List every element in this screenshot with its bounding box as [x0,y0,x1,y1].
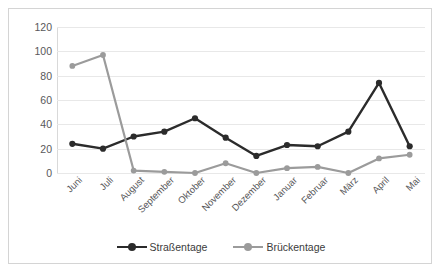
x-axis-tick-label: März [338,175,360,197]
x-axis-tick-label: Januar [271,175,298,202]
x-axis-tick-label: August [118,175,146,203]
data-point[interactable] [407,152,413,158]
legend-swatch-brueckentage [233,242,263,252]
x-axis-tick-label: Februar [299,175,329,205]
x-axis-tick-label: April [371,175,391,195]
data-point[interactable] [131,168,137,174]
y-axis-tick-label: 80 [40,70,52,81]
data-point[interactable] [376,156,382,162]
x-axis-tick-label: Mai [404,175,422,193]
data-point[interactable] [407,143,413,149]
legend-item-brueckentage[interactable]: Brückentage [233,241,325,253]
data-point[interactable] [69,141,75,147]
legend-swatch-strassentage [117,242,147,252]
x-axis-tick-labels: JuniJuliAugustSeptemberOktoberNovemberDe… [57,175,425,237]
data-point[interactable] [192,115,198,121]
data-point[interactable] [284,142,290,148]
data-point[interactable] [223,160,229,166]
x-axis-tick-label: Juli [98,175,115,192]
legend-label-brueckentage: Brückentage [266,241,325,253]
series-lines-svg [57,27,425,173]
chart-container: 020406080100120 JuniJuliAugustSeptemberO… [8,8,432,264]
data-point[interactable] [315,164,321,170]
legend-label-strassentage: Straßentage [150,241,208,253]
y-axis-tick-label: 0 [46,168,52,179]
data-point[interactable] [345,129,351,135]
y-axis-tick-label: 100 [34,46,52,57]
gridline [57,173,425,174]
data-point[interactable] [161,129,167,135]
data-point[interactable] [100,52,106,58]
data-point[interactable] [253,153,259,159]
data-point[interactable] [315,143,321,149]
data-point[interactable] [161,169,167,175]
y-axis-tick-label: 60 [40,95,52,106]
y-axis-tick-label: 20 [40,143,52,154]
data-point[interactable] [69,63,75,69]
chart-legend: Straßentage Brückentage [9,241,433,253]
y-axis-tick-label: 40 [40,119,52,130]
legend-item-strassentage[interactable]: Straßentage [117,241,208,253]
plot-area: 020406080100120 [57,27,425,173]
series-line-strassentage [72,83,409,156]
data-point[interactable] [376,80,382,86]
y-axis-tick-label: 120 [34,22,52,33]
data-point[interactable] [131,133,137,139]
data-point[interactable] [284,165,290,171]
data-point[interactable] [100,146,106,152]
data-point[interactable] [223,135,229,141]
x-axis-tick-label: Juni [65,175,84,194]
